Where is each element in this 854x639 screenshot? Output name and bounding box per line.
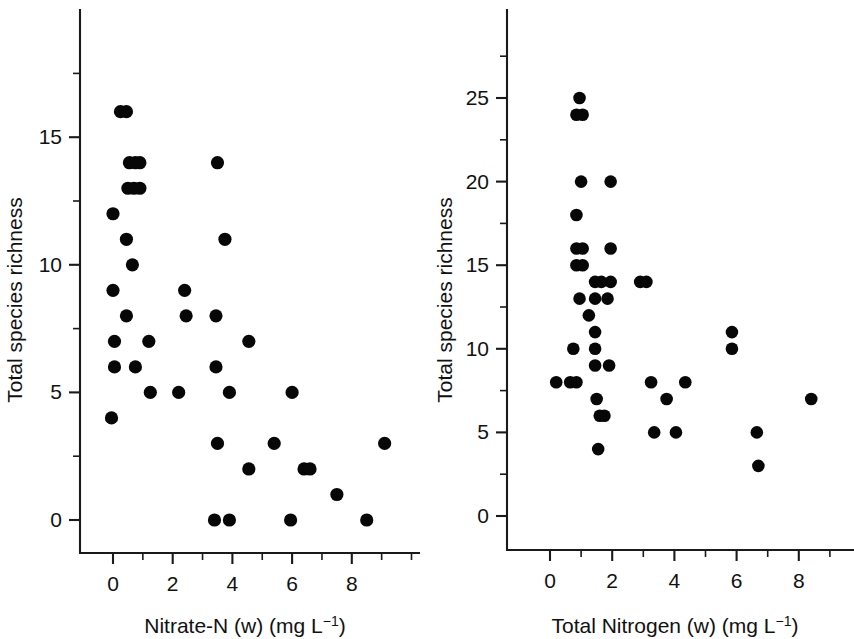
right-datapoint-group — [550, 92, 818, 472]
data-point — [209, 309, 222, 322]
data-point — [126, 258, 139, 271]
data-point — [604, 276, 617, 289]
panel-total-nitrogen: 051015202502468Total Nitrogen (w) (mg L−… — [430, 0, 854, 639]
data-point — [576, 242, 589, 255]
left-x-tick-label: 0 — [107, 572, 119, 595]
right-y-tick-label: 0 — [477, 504, 489, 527]
data-point — [144, 386, 157, 399]
right-x-axis-title: Total Nitrogen (w) (mg L−1) — [551, 613, 798, 637]
data-point — [805, 393, 818, 406]
left-y-tick-label: 10 — [39, 253, 62, 276]
right-x-tick-label: 6 — [731, 569, 743, 592]
data-point — [106, 284, 119, 297]
data-point — [645, 376, 658, 389]
data-point — [550, 376, 563, 389]
data-point — [208, 513, 221, 526]
data-point — [752, 460, 765, 473]
data-point — [589, 326, 602, 339]
left-y-axis-title: Total species richness — [3, 197, 26, 402]
right-y-axis-title: Total species richness — [433, 197, 456, 402]
left-x-axis-title: Nitrate-N (w) (mg L−1) — [144, 613, 345, 637]
left-x-tick-label: 6 — [286, 572, 298, 595]
data-point — [670, 426, 683, 439]
data-point — [576, 108, 589, 121]
data-point — [589, 292, 602, 305]
figure-scatter-pair: 05101502468Nitrate-N (w) (mg L−1)Total s… — [0, 0, 854, 639]
right-x-tick-label: 4 — [669, 569, 681, 592]
left-x-tick-label: 8 — [346, 572, 358, 595]
left-y-tick-label: 0 — [50, 508, 62, 531]
left-x-tick-label: 4 — [227, 572, 239, 595]
right-y-tick-label: 15 — [466, 253, 489, 276]
data-point — [604, 175, 617, 188]
data-point — [129, 360, 142, 373]
right-x-tick-label: 8 — [793, 569, 805, 592]
data-point — [648, 426, 661, 439]
data-point — [268, 437, 281, 450]
scatter-plot-nitrate-n: 05101502468Nitrate-N (w) (mg L−1)Total s… — [0, 0, 430, 639]
data-point — [108, 360, 121, 373]
data-point — [242, 462, 255, 475]
data-point — [172, 386, 185, 399]
data-point — [303, 462, 316, 475]
data-point — [603, 359, 616, 372]
data-point — [105, 411, 118, 424]
right-y-tick-label: 20 — [466, 170, 489, 193]
data-point — [378, 437, 391, 450]
data-point — [573, 292, 586, 305]
data-point — [120, 105, 133, 118]
left-y-tick-label: 5 — [50, 380, 62, 403]
data-point — [751, 426, 764, 439]
data-point — [726, 343, 739, 356]
data-point — [601, 292, 614, 305]
data-point — [573, 92, 586, 105]
data-point — [598, 409, 611, 422]
panel-nitrate-n: 05101502468Nitrate-N (w) (mg L−1)Total s… — [0, 0, 430, 639]
right-x-tick-label: 0 — [544, 569, 556, 592]
data-point — [589, 359, 602, 372]
data-point — [589, 343, 602, 356]
data-point — [583, 309, 596, 322]
right-y-tick-label: 25 — [466, 86, 489, 109]
data-point — [218, 233, 231, 246]
data-point — [567, 343, 580, 356]
data-point — [330, 488, 343, 501]
right-axis-spine — [507, 10, 854, 550]
data-point — [679, 376, 692, 389]
data-point — [180, 309, 193, 322]
data-point — [211, 437, 224, 450]
data-point — [360, 513, 373, 526]
data-point — [592, 443, 605, 456]
data-point — [576, 259, 589, 272]
data-point — [575, 175, 588, 188]
data-point — [590, 393, 603, 406]
data-point — [133, 156, 146, 169]
right-y-tick-label: 5 — [477, 420, 489, 443]
right-x-tick-label: 2 — [606, 569, 618, 592]
data-point — [178, 284, 191, 297]
data-point — [604, 242, 617, 255]
left-datapoint-group — [105, 105, 391, 527]
data-point — [726, 326, 739, 339]
data-point — [106, 207, 119, 220]
right-y-tick-label: 10 — [466, 337, 489, 360]
data-point — [120, 233, 133, 246]
data-point — [286, 386, 299, 399]
data-point — [284, 513, 297, 526]
data-point — [640, 276, 653, 289]
data-point — [120, 309, 133, 322]
data-point — [570, 209, 583, 222]
data-point — [660, 393, 673, 406]
data-point — [209, 360, 222, 373]
scatter-plot-total-nitrogen: 051015202502468Total Nitrogen (w) (mg L−… — [430, 0, 854, 639]
data-point — [133, 182, 146, 195]
data-point — [142, 335, 155, 348]
data-point — [223, 386, 236, 399]
left-y-tick-label: 15 — [39, 125, 62, 148]
data-point — [242, 335, 255, 348]
data-point — [211, 156, 224, 169]
left-x-tick-label: 2 — [167, 572, 179, 595]
data-point — [570, 376, 583, 389]
data-point — [108, 335, 121, 348]
data-point — [223, 513, 236, 526]
